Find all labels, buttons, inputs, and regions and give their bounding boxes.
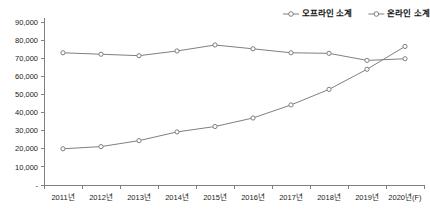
y-tick-label: 80,000 [15, 36, 38, 45]
y-axis: -10,00020,00030,00040,00050,00060,00070,… [15, 18, 44, 190]
x-tick-label: 2018년 [317, 192, 341, 202]
data-point [175, 130, 179, 134]
y-tick-label: 40,000 [15, 108, 38, 117]
x-tick-label: 2011년 [51, 192, 74, 202]
legend-label: 오프라인 소계 [302, 8, 352, 18]
data-point [289, 51, 293, 55]
y-tick-label: 20,000 [15, 144, 38, 153]
data-point [289, 103, 293, 107]
x-tick-label: 2019년 [355, 192, 379, 202]
y-tick-label: 60,000 [15, 72, 38, 81]
x-tick-label: 2020년(F) [388, 192, 422, 202]
data-point [213, 43, 217, 47]
x-tick-label: 2017년 [279, 192, 303, 202]
x-tick-label: 2013년 [127, 192, 151, 202]
legend-item-1[interactable]: 온라인 소계 [368, 8, 429, 18]
legend-marker [374, 12, 379, 17]
y-tick-label: 70,000 [15, 54, 38, 63]
y-tick-label: - [36, 181, 39, 190]
legend-label: 온라인 소계 [387, 8, 429, 18]
y-tick-label: 10,000 [15, 163, 38, 172]
x-tick-label: 2014년 [165, 192, 189, 202]
data-point [99, 145, 103, 149]
y-tick-label: 30,000 [15, 126, 38, 135]
x-tick-label: 2015년 [203, 192, 227, 202]
series-line-0 [63, 45, 405, 60]
legend-marker [289, 12, 294, 17]
line-chart: 오프라인 소계온라인 소계 -10,00020,00030,00040,0005… [0, 0, 430, 215]
data-point [327, 87, 331, 91]
data-point [99, 52, 103, 56]
data-point [175, 49, 179, 53]
data-point [251, 116, 255, 120]
data-point [61, 51, 65, 55]
x-tick-label: 2012년 [89, 192, 113, 202]
data-point [403, 57, 407, 61]
y-tick-label: 50,000 [15, 90, 38, 99]
series-line-1 [63, 46, 405, 148]
plot-area [61, 43, 407, 151]
data-point [213, 124, 217, 128]
data-point [137, 54, 141, 58]
data-point [251, 47, 255, 51]
x-tick-label: 2016년 [241, 192, 265, 202]
data-point [365, 58, 369, 62]
data-point [403, 44, 407, 48]
data-point [137, 139, 141, 143]
data-point [61, 147, 65, 151]
x-axis: 2011년2012년2013년2014년2015년2016년2017년2018년… [44, 185, 424, 202]
y-tick-label: 90,000 [15, 18, 38, 27]
data-point [327, 51, 331, 55]
chart-canvas: 오프라인 소계온라인 소계 -10,00020,00030,00040,0005… [0, 0, 430, 215]
legend-item-0[interactable]: 오프라인 소계 [283, 8, 352, 18]
legend: 오프라인 소계온라인 소계 [283, 8, 430, 18]
data-point [365, 67, 369, 71]
